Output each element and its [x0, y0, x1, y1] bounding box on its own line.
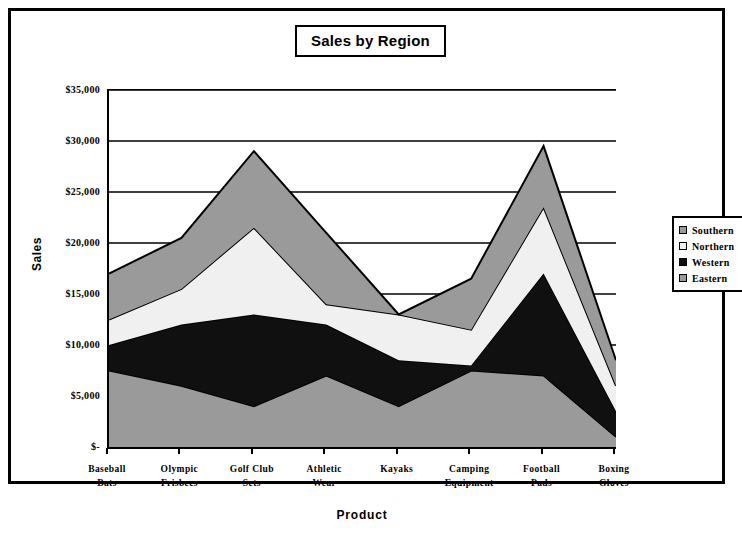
y-axis-tick-label: $30,000	[30, 135, 100, 146]
x-axis-tick	[178, 448, 180, 454]
y-axis-tick-label: $20,000	[30, 237, 100, 248]
y-axis-tick-label: $35,000	[30, 84, 100, 95]
x-axis-tick	[613, 448, 615, 454]
x-axis-tick-label: BoxingGloves	[569, 462, 659, 490]
x-axis-label-line: Wear	[279, 476, 369, 490]
x-axis-tick	[106, 448, 108, 454]
legend-item-northern[interactable]: Northern	[679, 238, 742, 254]
legend-item-southern[interactable]: Southern	[679, 222, 742, 238]
legend-key-southern	[679, 226, 687, 234]
legend-label: Northern	[692, 241, 734, 252]
chart-title: Sales by Region	[311, 32, 430, 49]
y-axis-tick-label: $10,000	[30, 339, 100, 350]
plot-area	[107, 90, 616, 449]
x-axis-tick	[396, 448, 398, 454]
y-axis-tick-label: $-	[30, 441, 100, 452]
y-axis-tick-label: $5,000	[30, 390, 100, 401]
legend-key-western	[679, 258, 687, 266]
legend-item-eastern[interactable]: Eastern	[679, 270, 742, 286]
legend-label: Western	[692, 257, 730, 268]
chart-legend: SouthernNorthernWesternEastern	[672, 216, 742, 292]
x-axis-tick	[251, 448, 253, 454]
legend-label: Southern	[692, 225, 734, 236]
y-axis-tick-label: $25,000	[30, 186, 100, 197]
legend-key-northern	[679, 242, 687, 250]
y-axis-tick-label: $15,000	[30, 288, 100, 299]
x-axis-tick	[541, 448, 543, 454]
legend-key-eastern	[679, 274, 687, 282]
chart-title-box: Sales by Region	[295, 25, 446, 57]
x-axis-labels: BaseballBatsOlympicFrisbeesGolf ClubSets…	[107, 456, 614, 501]
legend-label: Eastern	[692, 273, 727, 284]
y-axis-labels: $-$5,000$10,000$15,000$20,000$25,000$30,…	[28, 0, 100, 542]
legend-item-western[interactable]: Western	[679, 254, 742, 270]
x-axis-label-line: Boxing	[569, 462, 659, 476]
stacked-area-svg	[109, 90, 616, 447]
x-axis-title: Product	[247, 508, 477, 522]
x-axis-label-line: Gloves	[569, 476, 659, 490]
x-axis-tick	[468, 448, 470, 454]
x-axis-tick	[323, 448, 325, 454]
